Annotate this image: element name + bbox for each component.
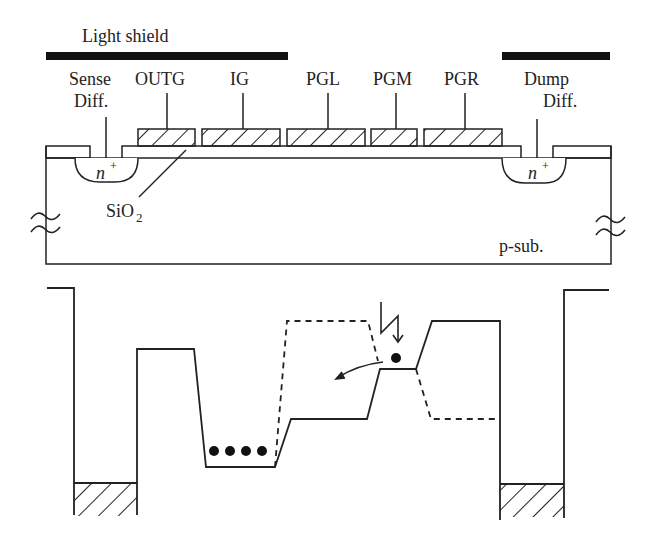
gate-outg xyxy=(138,129,195,146)
gate-label-pgr: PGR xyxy=(444,69,479,89)
gates xyxy=(138,129,502,146)
sio2-subscript: 2 xyxy=(136,210,143,225)
light-shield-bar-right xyxy=(502,52,610,60)
sense-diff-label-1: Sense xyxy=(69,69,111,89)
gate-ig xyxy=(202,129,280,146)
transfer-arrow-icon xyxy=(336,362,383,379)
gate-label-outg: OUTG xyxy=(135,69,185,89)
dump-well-fill xyxy=(500,484,564,517)
dump-n-plus-sup: + xyxy=(542,159,549,173)
oxide-layer xyxy=(46,146,611,158)
incident-light-icon xyxy=(381,302,403,342)
p-sub-label: p-sub. xyxy=(499,236,544,256)
light-shield-bar-left xyxy=(46,52,288,60)
gate-pgr xyxy=(424,129,502,146)
light-shield-label: Light shield xyxy=(82,26,169,46)
photo-electron xyxy=(391,353,401,363)
sense-n-plus-label: n xyxy=(96,163,105,183)
gate-label-ig: IG xyxy=(230,69,249,89)
leader-lines xyxy=(106,93,537,158)
light-shield: Light shield xyxy=(46,26,610,60)
gate-pgm xyxy=(371,129,417,146)
sio2-label: SiO xyxy=(106,201,134,221)
dump-n-plus-label: n xyxy=(528,163,537,183)
sense-n-plus xyxy=(75,158,138,182)
sense-diff-label-2: Diff. xyxy=(74,91,108,111)
gate-label-pgm: PGM xyxy=(373,69,412,89)
sense-n-plus-sup: + xyxy=(110,159,117,173)
sense-well-fill xyxy=(74,483,137,516)
potential-dashed xyxy=(275,321,500,467)
ccd-diagram: Light shield Sense Diff. OUTG IG PGL PGM… xyxy=(0,0,656,548)
sio2-leader xyxy=(139,150,186,197)
dump-diff-label-1: Dump xyxy=(524,69,569,89)
n-plus-wells xyxy=(75,158,566,183)
dump-diff-label-2: Diff. xyxy=(543,91,577,111)
gate-label-pgl: PGL xyxy=(306,69,340,89)
signal-charges xyxy=(209,446,267,456)
region-labels: Sense Diff. OUTG IG PGL PGM PGR Dump Dif… xyxy=(69,69,577,111)
gate-pgl xyxy=(287,129,365,146)
